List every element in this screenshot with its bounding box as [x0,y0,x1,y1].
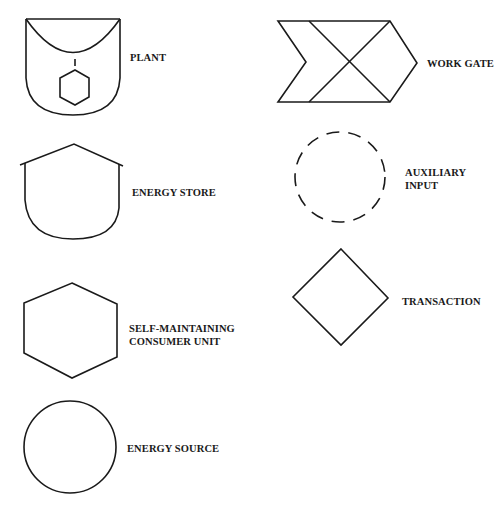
auxiliary-input-label-line-2: INPUT [405,179,466,192]
energy-store-label: ENERGY STORE [132,186,216,199]
work-gate-label: WORK GATE [427,57,494,70]
energy-source-label: ENERGY SOURCE [127,442,219,455]
consumer-unit-label: SELF-MAINTAINING CONSUMER UNIT [129,322,235,348]
work-gate-symbol [278,21,417,102]
energy-store-symbol [20,144,123,239]
plant-label: PLANT [130,51,166,64]
consumer-unit-label-line-1: SELF-MAINTAINING [129,322,235,335]
plant-symbol [26,19,120,115]
symbol-diagram [0,0,504,510]
auxiliary-input-symbol [295,132,385,222]
transaction-symbol [293,249,388,345]
auxiliary-input-label: AUXILIARY INPUT [405,166,466,192]
transaction-label: TRANSACTION [402,295,481,308]
energy-source-symbol [24,401,116,493]
consumer-unit-symbol [24,283,117,378]
consumer-unit-label-line-2: CONSUMER UNIT [129,335,235,348]
auxiliary-input-label-line-1: AUXILIARY [405,166,466,179]
